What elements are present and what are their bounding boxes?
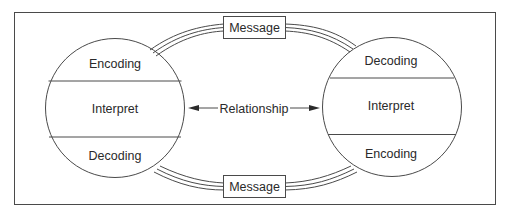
bottom-message-label: Message <box>229 180 280 194</box>
relationship-label: Relationship <box>220 102 289 116</box>
right-arrowhead-icon <box>309 105 320 111</box>
bottom-message-box: Message <box>224 176 286 198</box>
right-encoding-label: Encoding <box>365 147 417 161</box>
left-arrowhead-icon <box>188 105 199 111</box>
top-message-box: Message <box>224 17 286 39</box>
left-decoding-label: Decoding <box>89 149 142 163</box>
left-encoding-label: Encoding <box>89 57 141 71</box>
right-decoding-label: Decoding <box>365 54 418 68</box>
communication-diagram: Encoding Interpret Decoding Decoding Int… <box>0 0 507 217</box>
right-party-circle: Decoding Interpret Encoding <box>323 38 462 177</box>
left-party-circle: Encoding Interpret Decoding <box>46 39 185 178</box>
left-interpret-label: Interpret <box>92 102 139 116</box>
right-interpret-label: Interpret <box>368 99 415 113</box>
top-message-label: Message <box>229 21 280 35</box>
relationship-connector: Relationship <box>188 102 320 116</box>
